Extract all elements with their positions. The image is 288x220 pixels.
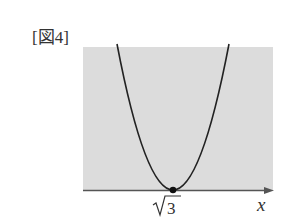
figure-label: [図4] [32,28,69,47]
vertex-label-radicand: 3 [167,199,176,218]
shaded-region [83,47,273,190]
vertex-point [170,187,177,194]
vertex-label: 3 [153,196,181,218]
figure-4: [図4] 3 x [0,0,288,220]
x-axis-label: x [256,194,266,215]
